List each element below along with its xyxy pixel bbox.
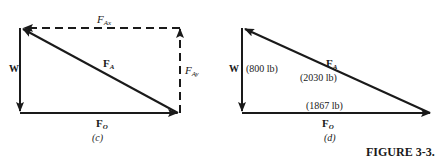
label-FO: FO [322,118,334,131]
label-FA-value: (2030 lb) [300,73,337,83]
label-FAy: FAy [185,65,199,78]
panel-c [20,28,180,113]
label-W: W [9,64,19,74]
label-FO: FO [96,118,108,131]
label-FA: FA [326,58,337,71]
force-diagrams [0,0,437,165]
label-FO-value: (1867 lb) [306,101,343,111]
label-W: W [229,64,239,74]
vector-FA [23,29,178,113]
caption-c: (c) [92,133,103,143]
caption-d: (d) [324,133,336,143]
figure-caption: FIGURE 3-3. [366,145,435,160]
label-W-value: (800 lb) [246,64,278,74]
label-FAx: FAx [97,14,111,27]
label-FA: FA [103,58,114,71]
